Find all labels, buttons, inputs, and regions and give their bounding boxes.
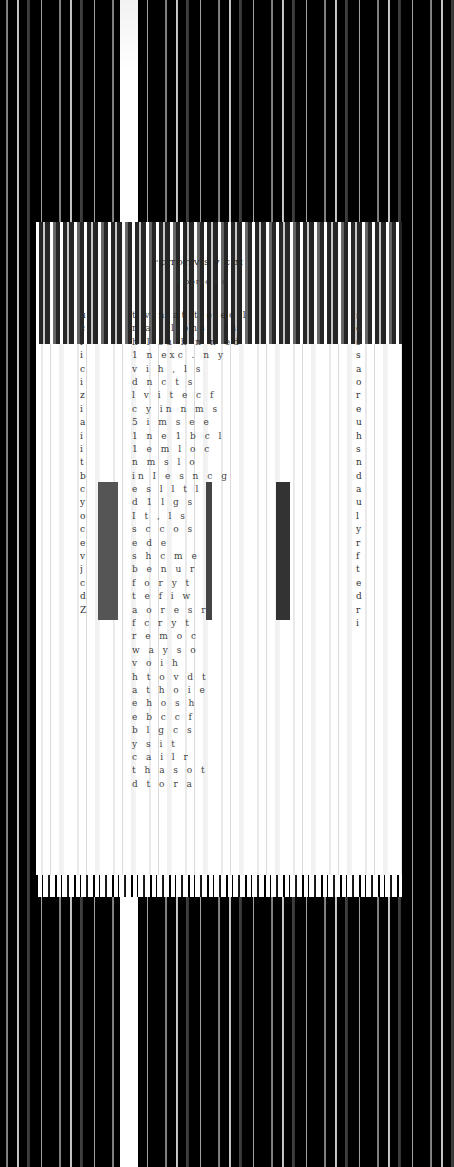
- margin-fragment: o: [356, 377, 396, 390]
- text-line: h l su h n n ed: [132, 337, 362, 350]
- text-line: e d e: [132, 538, 362, 551]
- margin-fragment: l: [80, 337, 110, 350]
- text-line: d 1 l g s: [132, 497, 362, 510]
- margin-fragment: i: [80, 431, 110, 444]
- margin-fragment: t: [356, 564, 396, 577]
- margin-fragment: f: [356, 551, 396, 564]
- margin-fragment: l: [356, 511, 396, 524]
- text-line: w a y s o: [132, 645, 362, 658]
- text-line: t v n at t e ec l: [132, 310, 362, 323]
- margin-fragment: i: [356, 618, 396, 631]
- margin-fragment: c: [80, 364, 110, 377]
- text-line: r e m o c: [132, 631, 362, 644]
- margin-fragment: n: [356, 457, 396, 470]
- margin-fragment: d: [356, 591, 396, 604]
- text-line: h t o v d t: [132, 672, 362, 685]
- margin-fragment: y: [356, 524, 396, 537]
- text-line: f o r y t: [132, 578, 362, 591]
- margin-fragment: i: [80, 377, 110, 390]
- margin-fragment: s: [356, 350, 396, 363]
- margin-fragment: e: [356, 578, 396, 591]
- text-line: a o r e s r: [132, 605, 362, 618]
- text-line: c y in n m s: [132, 404, 362, 417]
- right-margin-column: sossaoreuhsndaulyrftedri: [356, 310, 396, 631]
- margin-fragment: u: [80, 310, 110, 323]
- margin-fragment: d: [356, 471, 396, 484]
- text-line: I t , l s: [132, 511, 362, 524]
- text-line: b e n u r: [132, 564, 362, 577]
- text-line: e h o s h: [132, 698, 362, 711]
- text-line: s h c m e: [132, 551, 362, 564]
- page-subtitle: u pproc d s: [176, 278, 296, 286]
- text-line: y s i t: [132, 739, 362, 752]
- margin-fragment: i: [80, 404, 110, 417]
- text-line: e s l l t l: [132, 484, 362, 497]
- text-line: d n c t s: [132, 377, 362, 390]
- text-line: f c r y t: [132, 618, 362, 631]
- margin-fragment: u: [356, 417, 396, 430]
- margin-fragment: a: [356, 364, 396, 377]
- margin-fragment: s: [356, 310, 396, 323]
- text-line: e b c c f: [132, 712, 362, 725]
- text-line: in I e s n c g: [132, 471, 362, 484]
- margin-fragment: i: [80, 350, 110, 363]
- text-line: c a i l r: [132, 752, 362, 765]
- margin-fragment: z: [80, 390, 110, 403]
- text-line: a t h o i e: [132, 685, 362, 698]
- body-text: t v n at t e ec lr a . l ons i lsh l su …: [132, 310, 362, 792]
- margin-fragment: e: [356, 404, 396, 417]
- margin-fragment: c: [80, 323, 110, 336]
- margin-fragment: a: [80, 417, 110, 430]
- document-page: 'C TO TV S F C M u pproc d s ucliciziaii…: [36, 222, 402, 897]
- text-line: 1 e m l o c: [132, 444, 362, 457]
- margin-fragment: o: [356, 323, 396, 336]
- page-title: 'C TO TV S F C M: [156, 258, 306, 267]
- text-line: t h a s o t: [132, 765, 362, 778]
- margin-fragment: r: [356, 390, 396, 403]
- margin-fragment: r: [356, 605, 396, 618]
- text-line: t e f i w: [132, 591, 362, 604]
- scan-artifact-block: [206, 482, 212, 620]
- margin-fragment: i: [80, 444, 110, 457]
- text-line: 5 i m s e e: [132, 417, 362, 430]
- margin-fragment: s: [356, 337, 396, 350]
- text-line: v o i h: [132, 658, 362, 671]
- text-line: n m s l o: [132, 457, 362, 470]
- text-line: 1 n exc . n y: [132, 350, 362, 363]
- margin-fragment: t: [80, 457, 110, 470]
- scan-artifact-block: [98, 482, 118, 620]
- text-line: 1 n e 1 b c l: [132, 431, 362, 444]
- text-line: s c c o s: [132, 524, 362, 537]
- margin-fragment: h: [356, 431, 396, 444]
- margin-fragment: u: [356, 497, 396, 510]
- margin-fragment: a: [356, 484, 396, 497]
- margin-fragment: r: [356, 538, 396, 551]
- text-line: d t o r a: [132, 779, 362, 792]
- scan-artifact-block: [276, 482, 290, 620]
- page-bottom-artifact-band: [36, 875, 402, 897]
- text-line: v i h , l s: [132, 364, 362, 377]
- margin-fragment: s: [356, 444, 396, 457]
- text-line: b l g c s: [132, 725, 362, 738]
- text-line: r a . l ons i ls: [132, 323, 362, 336]
- text-line: l v i t e c f: [132, 390, 362, 403]
